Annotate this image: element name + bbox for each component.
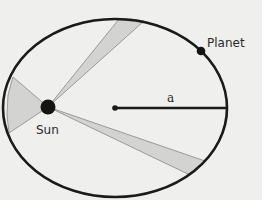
sun-icon [41,100,56,115]
planet-icon [197,47,206,56]
planet-label: Planet [207,36,245,50]
diagram-svg: Planet Sun a [0,0,262,200]
sun-label: Sun [36,123,59,137]
semi-major-axis-label: a [167,91,174,105]
wedge-top [48,19,144,107]
swept-areas [7,19,205,175]
wedge-bottom-right [48,107,205,175]
kepler-orbit-diagram: Planet Sun a [0,0,262,200]
center-point [112,105,118,111]
